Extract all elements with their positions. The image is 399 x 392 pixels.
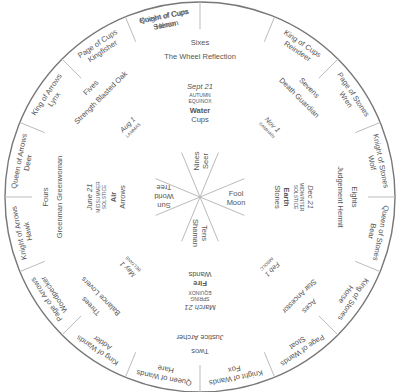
- season-event: EQUINOX: [188, 290, 212, 296]
- court-card-animal: Wolf: [366, 155, 378, 172]
- court-card-label: Knight of CupsSalmon: [139, 7, 191, 34]
- divider-tick: [264, 352, 274, 377]
- center-card-label: TensShaman: [191, 219, 209, 247]
- divider-tick: [20, 122, 45, 132]
- season-event: EQUINOX: [188, 98, 212, 104]
- center-card-text: Shaman: [191, 219, 200, 247]
- center-card-text: Fool: [229, 189, 244, 198]
- season-date: Sept 21: [187, 82, 213, 91]
- number-card-number: Eights: [350, 187, 359, 208]
- season-event: SOLSTICE: [293, 185, 299, 210]
- center-card-text: Nines: [192, 151, 201, 170]
- season-suit: Wands: [188, 270, 211, 279]
- center-card-text: Sun: [157, 201, 170, 210]
- center-card-text: World: [154, 192, 173, 201]
- divider-tick: [319, 59, 338, 78]
- center-card-labels: NinesSeerFoolMoonTensShamanSunWorldTree: [154, 151, 245, 247]
- number-card-number: Sixes: [191, 38, 210, 47]
- cross-quarter-label: Feb 1IMBOLC: [258, 256, 281, 279]
- court-card-label: King of CupsReindeer: [277, 28, 323, 67]
- season-suit: Arrows: [118, 185, 127, 209]
- season-event: SOLSTICE: [101, 184, 107, 209]
- court-card-animal: Deer: [22, 153, 34, 171]
- season-date: Dec 21: [306, 185, 315, 209]
- season-suit: Stones: [273, 185, 282, 209]
- center-card-label: SunWorldTree: [154, 183, 173, 210]
- divider-tick: [62, 59, 81, 78]
- number-card-major: The Wheel Reflection: [164, 52, 236, 61]
- divider-tick: [20, 261, 45, 271]
- court-card-animal: Fox: [227, 363, 241, 374]
- divider-tick: [264, 17, 274, 42]
- number-card-major: Judgement Hermit: [336, 166, 345, 228]
- divider-tick: [62, 316, 81, 335]
- center-card-text: Seer: [201, 153, 210, 169]
- number-card-number: Fours: [41, 187, 50, 206]
- number-card-label: FoursGreenman Greenwoman: [41, 156, 64, 239]
- divider-tick: [355, 261, 380, 271]
- court-card-label: Page of StonesWren: [328, 71, 372, 124]
- cross-quarter-label: Aug 1LAMMAS: [118, 115, 142, 139]
- season-date: March 21: [184, 303, 215, 312]
- court-card-label: Page of ArrowsWoodpecker: [29, 271, 72, 323]
- wheel-of-the-year-diagram: Queen of CupsHeronKing of CupsReindeerPa…: [0, 0, 399, 392]
- divider-tick: [319, 316, 338, 335]
- number-card-label: SixesThe Wheel Reflection: [164, 38, 236, 61]
- season-label: Dec 21MIDWINTERSOLSTICEEarthStones: [273, 183, 315, 212]
- season-element: Earth: [282, 187, 291, 207]
- court-card-label: Page of CupsKingfisher: [76, 27, 124, 67]
- court-card-label: King of WandsAdder: [75, 326, 126, 368]
- court-card-animal: Bear: [366, 223, 378, 241]
- center-card-label: NinesSeer: [192, 151, 210, 170]
- season-label: March 21SPRINGEQUINOXFireWands: [184, 270, 215, 312]
- number-card-number: Twos: [191, 347, 209, 356]
- court-card-animal: Hare: [157, 363, 175, 375]
- number-card-label: EightsJudgement Hermit: [336, 166, 359, 228]
- season-element: Water: [190, 106, 211, 115]
- season-label: Sept 21AUTUMNEQUINOXWaterCups: [187, 82, 213, 124]
- court-card-label: Page of WandsStoat: [274, 325, 327, 368]
- cross-quarter-label: May 1BELTANE: [118, 255, 142, 279]
- center-card-label: FoolMoon: [227, 189, 246, 207]
- season-date: June 21: [85, 184, 94, 212]
- center-card-text: Tree: [156, 183, 171, 192]
- center-card-text: Moon: [227, 198, 246, 207]
- divider-tick: [125, 17, 135, 42]
- court-card-label: King of StonesHorse: [328, 272, 370, 323]
- number-card-major: Greenman Greenwoman: [55, 156, 64, 239]
- season-label: June 21MIDSUMMERSOLSTICEAirArrows: [85, 181, 127, 213]
- divider-tick: [355, 122, 380, 132]
- season-element: Air: [109, 192, 118, 203]
- number-card-label: TwosJustice Archer: [176, 333, 224, 356]
- center-card-text: Tens: [200, 225, 209, 241]
- season-suit: Cups: [191, 115, 209, 124]
- court-card-label: King of ArrowsLynx: [29, 72, 71, 122]
- season-element: Fire: [193, 279, 207, 288]
- divider-tick: [125, 352, 135, 377]
- cross-quarter-label: Nov 1SAMHAIN: [258, 115, 282, 139]
- number-card-major: Justice Archer: [176, 333, 224, 342]
